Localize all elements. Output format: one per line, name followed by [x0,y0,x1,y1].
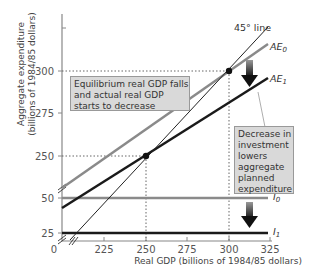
y-tick-label-300: 300 [35,66,54,77]
annotation-line: aggregate [238,162,290,173]
x-tick-label-250: 250 [136,244,155,255]
x-tick-label-300: 300 [219,244,238,255]
label-ae0: AE0 [269,41,288,54]
annotation-line: investment [238,140,290,151]
annotation-box-equilibrium-falls: Equilibrium real GDP falls and actual re… [70,76,190,111]
x-tick-label-225: 225 [94,244,113,255]
annotation-line: Decrease in [238,129,290,140]
annotation-line: Equilibrium real GDP falls [74,79,186,90]
down-arrow-icon-investment [241,202,258,228]
down-arrow-icon-ae [241,60,258,87]
annotation-box-investment-decrease: Decrease in investment lowers aggregate … [234,126,294,194]
equilibrium-point-initial [226,68,232,74]
x-tick-label-325: 325 [260,244,279,255]
x-tick-label-275: 275 [177,244,196,255]
label-45-degree-line: 45° line [234,22,271,33]
annotation-line: planned [238,173,290,184]
annotation-line: and actual real GDP [74,90,186,101]
annotation-pointer [258,92,265,127]
label-i1: I1 [273,226,280,239]
y-axis-title-line2: (billions of 1984/85 dollars) [27,12,37,135]
annotation-line: expenditure [238,184,290,195]
y-tick-label-25: 25 [41,228,54,239]
y-tick-label-50: 50 [41,193,54,204]
y-tick-label-275: 275 [35,108,54,119]
y-axis-title-line1: Aggregate expenditure [16,22,26,126]
equilibrium-point-new [143,153,149,159]
x-tick-label-0: 0 [51,244,57,255]
y-tick-label-250: 250 [35,151,54,162]
label-ae1: AE1 [269,73,287,86]
x-axis-title: Real GDP (billions of 1984/85 dollars) [134,256,302,266]
annotation-line: starts to decrease [74,101,186,112]
annotation-line: lowers [238,151,290,162]
